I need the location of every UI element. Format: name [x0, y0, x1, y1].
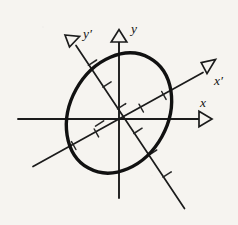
- x-prime-axis-arrowhead-icon: [201, 60, 215, 74]
- x-prime-axis-label: x′: [214, 74, 223, 88]
- y-prime-axis-arrowhead-icon: [65, 35, 80, 47]
- y-prime-axis-label: y′: [83, 27, 92, 41]
- x-axis-label: x: [200, 96, 206, 110]
- y-axis-arrowhead-icon: [111, 30, 127, 43]
- figure-canvas: [0, 0, 238, 225]
- tick-mark: [96, 121, 104, 126]
- tick-mark: [134, 128, 142, 133]
- y-prime-axis-group: [65, 35, 185, 209]
- y-axis-label: y: [131, 22, 137, 36]
- conic-rotation-figure: x y x′ y′: [0, 0, 238, 225]
- tick-mark: [163, 172, 171, 177]
- x-prime-axis-group: [33, 60, 216, 167]
- tick-mark: [103, 82, 111, 87]
- x-axis-arrowhead-icon: [199, 111, 212, 127]
- x-axis-group: [18, 111, 212, 127]
